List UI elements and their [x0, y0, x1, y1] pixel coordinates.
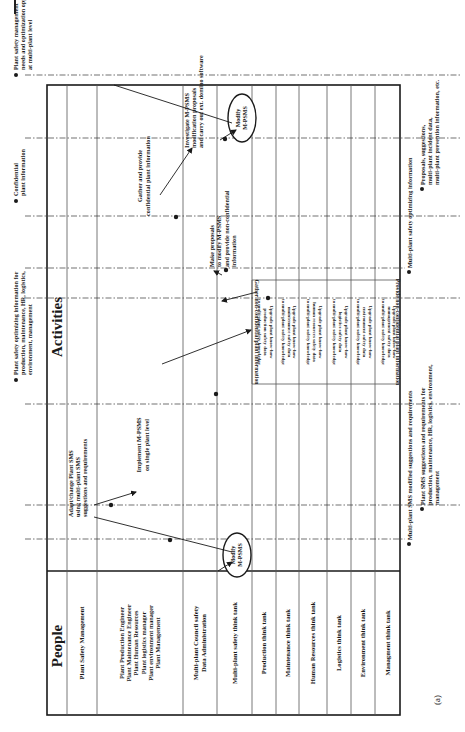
input-dot: [14, 73, 18, 77]
activity-investigate-line: Investigate M-PSMS: [183, 93, 190, 148]
activity-adapt-change-line: using multi-plant SMS: [74, 457, 81, 517]
people-label-logistics-think-tank: Logistics think tank: [335, 615, 342, 671]
output-dot: [407, 270, 411, 274]
activity-make-proposals: Make proposalsto modify M-PSMSand provid…: [208, 190, 236, 267]
arrow-adapt-to-modify: [94, 517, 232, 552]
upgrade-line: Upgrade plant know-how: [368, 305, 373, 359]
modify-texts: ModifyM-PSMSModifyM-PSMS: [230, 106, 248, 567]
people-label-multi-plant-safety-think-tank-line: Multi-plant safety think tank: [231, 602, 238, 684]
people-label-management-think-tank: Managment think tank: [384, 610, 391, 676]
people-label-human-resources-think-tank: Human Resources think tank: [309, 601, 316, 684]
people-label-plant-roles-line: Plant Management: [154, 616, 161, 668]
upgrade-label-maintenance-think-tank: Upgrade plant know-howmaintenance safety…: [281, 299, 297, 366]
swimlane-diagram: People Activities Plant Safety Managemen…: [0, 0, 465, 732]
upgrade-line: to multi-plant safety knowledge: [381, 299, 386, 366]
people-header: People: [49, 624, 65, 667]
people-label-maintenance-think-tank-line: Maintenance think tank: [284, 609, 291, 677]
arrow-needs-to-modify: [114, 85, 232, 123]
people-labels: Plant Safety ManagementPlant Production …: [78, 601, 391, 684]
upgrade-line: maintenance safety data: [287, 307, 292, 358]
people-label-plant-roles: Plant Production EngineerPlant Maintenan…: [118, 604, 161, 681]
output-annotation-line: Proposals, suggestions,: [419, 124, 426, 185]
output-annotations: Proposals, suggestions,multi-plant incid…: [406, 79, 440, 546]
upgrade-label-environment-think-tank: Upgrade plant know-howenvironment safety…: [356, 299, 372, 366]
modify-bottom-label: ModifyM-PSMS: [230, 543, 243, 567]
arrow-implement-to-gather: [162, 330, 251, 364]
upgrade-line: Upgrade plant know-how: [292, 305, 297, 359]
people-label-multi-plant-council-line: Multi-plant Council safety: [192, 605, 199, 680]
upgrade-line: environment safety data: [362, 307, 367, 358]
upgrade-line: to multi-plant safety knowledge: [356, 299, 361, 366]
input-annotation-line: needs and optimization opportunities: [19, 0, 26, 70]
input-annotation-line: Plant safety optimizing information for: [12, 271, 19, 375]
people-label-plant-roles-line: Plant Production Engineer: [118, 607, 125, 679]
activity-implement-line: Implement M-PSMS: [135, 417, 142, 472]
figure-label: (a): [432, 695, 442, 705]
flow-arrows: [94, 85, 257, 571]
arrow-gather-to-investigate: [160, 148, 192, 195]
diagram-frame: [47, 85, 400, 715]
activity-gather-confidential-line: Gather and provide: [136, 150, 143, 202]
people-label-plant-safety-management-line: Plant Safety Management: [78, 606, 85, 680]
people-label-environment-think-tank-line: Environment think tank: [359, 608, 366, 677]
output-dot: [420, 507, 424, 511]
modify-top-label-line: M-PSMS: [242, 106, 248, 130]
activity-adapt-change-line: suggestions and requirements: [81, 438, 88, 517]
upgrade-line: management safety data: [387, 307, 392, 358]
activity-make-proposals-line: information: [230, 235, 237, 267]
upgrade-line: Upgrade plant know-how: [318, 305, 323, 359]
activity-make-proposals-line: and provide non-confidential: [223, 190, 230, 267]
arrow-adapt-to-implement: [94, 492, 136, 505]
people-label-multi-plant-safety-think-tank: Multi-plant safety think tank: [231, 602, 238, 684]
people-label-production-think-tank: Production think tank: [260, 611, 267, 674]
people-label-logistics-think-tank-line: Logistics think tank: [335, 615, 342, 671]
people-label-plant-safety-management: Plant Safety Management: [78, 606, 85, 680]
output-annotation-line: multi-plant prevention information, etc.: [433, 79, 440, 185]
people-label-plant-roles-line: Plant logistics manager: [140, 611, 147, 674]
input-annotations: Plant safety managementneeds and optimiz…: [12, 0, 33, 382]
upgrade-line: to multi-plant safety knowledge: [332, 299, 337, 366]
input-dot: [14, 199, 18, 203]
input-annotation-line: Plant safety management: [12, 2, 19, 70]
input-annotation-line: plant information: [19, 149, 26, 196]
lane-separators: [67, 85, 375, 715]
people-label-plant-roles-line: Plant Maintenance Engineer: [125, 604, 132, 681]
output-dot: [407, 542, 411, 546]
modify-bottom-label-line: Modify: [230, 546, 236, 565]
upgrade-label-human-resources-think-tank: Upgrade plant know-howhuman resources sa…: [306, 299, 322, 366]
input-annotation-line: production, maintenance, HR, logistics,: [19, 271, 26, 375]
output-annotation-line: production, maintenance, HR, logistics, …: [426, 364, 433, 505]
upgrade-line: to multi-plant safety knowledge: [257, 299, 262, 366]
upgrade-line: logistics safety data: [338, 312, 343, 353]
input-annotation-line: at multi-plant level: [26, 20, 33, 70]
people-label-maintenance-think-tank: Maintenance think tank: [284, 609, 291, 677]
output-annotation-line: Multi-plant SMS modified suggestions and…: [406, 390, 413, 540]
activity-gather-confidential-line: confidential plant information: [144, 136, 151, 216]
output-dot: [420, 187, 424, 191]
output-annotation-line: Multi-plant safety optimizing informatio…: [406, 157, 413, 268]
upgrade-line: human resources safety data: [312, 302, 317, 362]
output-annotation-line: Plant SMS suggestions and requirements f…: [419, 387, 426, 505]
upgrade-line: Upgrade plant know-how: [392, 305, 397, 359]
upgrade-label-management-think-tank: Upgrade plant know-howmanagement safety …: [381, 299, 397, 366]
people-label-multi-plant-council-line: Data Administration: [200, 614, 207, 672]
input-dot: [14, 378, 18, 382]
activity-gather-confidential: Gather and provideconfidential plant inf…: [136, 136, 150, 216]
activities-header: Activities: [49, 297, 65, 357]
activity-investigate-line: modification proposals: [190, 87, 197, 148]
activity-implement-line: on single plant level: [143, 419, 150, 471]
activity-implement: Implement M-PSMSon single plant level: [135, 417, 149, 472]
input-annotation-line: Confidential: [12, 163, 19, 196]
connector-dots: [109, 137, 270, 542]
activity-make-proposals-line: to modify M-PSMS: [215, 215, 222, 267]
activity-investigate-line: and carry out ext. domino software: [197, 55, 204, 148]
people-label-production-think-tank-line: Production think tank: [260, 611, 267, 674]
activity-adapt-change: Adapt/change Plant SMSusing multi-plant …: [67, 438, 88, 517]
upgrade-line: Upgrade plant know-how: [344, 305, 349, 359]
output-annotation-line: management: [433, 470, 440, 505]
upgrade-line: to multi-plant safety knowledge: [306, 299, 311, 366]
upgrade-line: to multi-plant safety knowledge: [281, 299, 286, 366]
arrow-make-to-investigate: [214, 271, 222, 275]
people-label-management-think-tank-line: Managment think tank: [384, 610, 391, 676]
people-label-plant-roles-line: Plant Human Resources: [132, 610, 139, 676]
